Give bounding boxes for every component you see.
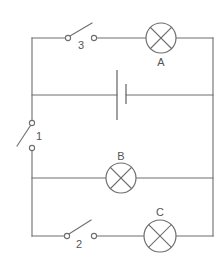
switch-1-label: 1 [36, 130, 42, 142]
lamp-c-icon: C [144, 206, 176, 252]
lamp-c-label: C [156, 206, 164, 218]
battery-icon [117, 70, 126, 120]
switch-3[interactable]: 3 [65, 23, 96, 51]
lamp-b-icon: B [106, 150, 136, 193]
switch-1[interactable]: 1 [17, 120, 42, 150]
circuit-diagram: 3 A 1 [0, 0, 222, 264]
lamp-a-icon: A [146, 23, 176, 68]
switch-2[interactable]: 2 [64, 220, 96, 250]
circuit-svg: 3 A 1 [0, 0, 222, 264]
lamp-b-label: B [117, 150, 124, 162]
switch-2-label: 2 [76, 238, 82, 250]
lamp-a-label: A [157, 56, 165, 68]
switch-3-label: 3 [78, 39, 84, 51]
